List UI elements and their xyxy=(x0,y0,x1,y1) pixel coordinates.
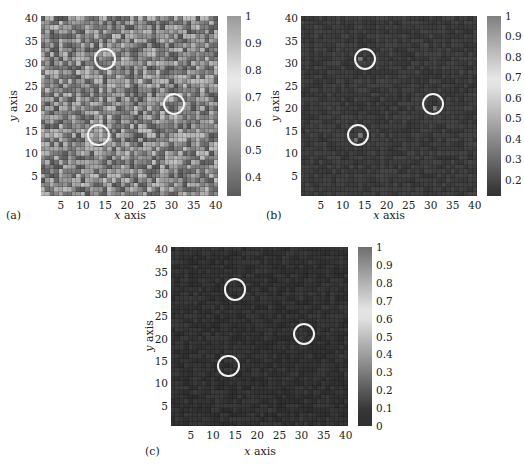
heatmap-grid-b xyxy=(301,16,477,196)
y-tick-label: 10 xyxy=(285,148,298,159)
y-tick-label: 5 xyxy=(291,171,298,182)
colorbar-tick-label: 0.5 xyxy=(376,331,393,342)
x-tick-label: 5 xyxy=(58,200,65,211)
y-axis-label-a: y axis xyxy=(7,90,20,122)
heatmap-grid-a xyxy=(41,16,218,196)
colorbar-tick-label: 0.1 xyxy=(376,403,393,414)
colorbar-tick-label: 0.4 xyxy=(245,172,262,183)
colorbar-tick-label: 0.3 xyxy=(376,367,393,378)
y-tick-label: 10 xyxy=(155,378,168,389)
colorbar-b xyxy=(487,16,501,196)
colorbar-tick-label: 1 xyxy=(505,11,512,22)
colorbar-tick-label: 1 xyxy=(245,11,252,22)
x-tick-label: 15 xyxy=(228,430,241,441)
y-tick-label: 35 xyxy=(155,266,168,277)
x-tick-label: 15 xyxy=(98,200,111,211)
x-tick-label: 5 xyxy=(188,430,195,441)
x-axis-label-a: x axis xyxy=(114,209,146,222)
y-tick-label: 35 xyxy=(25,36,38,47)
colorbar-tick-label: 0.8 xyxy=(376,278,393,289)
x-tick-label: 25 xyxy=(273,430,286,441)
colorbar-tick-label: 0.7 xyxy=(505,72,522,83)
y-tick-label: 20 xyxy=(155,333,168,344)
y-tick-label: 30 xyxy=(285,58,298,69)
colorbar-tick-label: 1 xyxy=(376,242,383,253)
colorbar-a xyxy=(227,16,241,196)
colorbar-tick-label: 0.9 xyxy=(505,31,522,42)
colorbar-tick-label: 0.4 xyxy=(505,133,522,144)
y-tick-label: 15 xyxy=(25,126,38,137)
x-tick-label: 15 xyxy=(358,200,371,211)
colorbar-tick-label: 0.8 xyxy=(245,64,262,75)
x-tick-label: 35 xyxy=(317,430,330,441)
x-tick-label: 35 xyxy=(187,200,200,211)
y-tick-label: 20 xyxy=(285,103,298,114)
y-tick-label: 30 xyxy=(25,58,38,69)
heatmap-cell xyxy=(344,422,348,426)
colorbar-tick-label: 0.7 xyxy=(376,295,393,306)
y-tick-label: 10 xyxy=(25,148,38,159)
colorbar-tick-label: 0.9 xyxy=(376,260,393,271)
colorbar-tick-label: 0.2 xyxy=(376,385,393,396)
y-tick-label: 25 xyxy=(155,311,168,322)
x-tick-label: 10 xyxy=(336,200,349,211)
y-tick-label: 40 xyxy=(285,13,298,24)
colorbar-tick-label: 0.5 xyxy=(505,113,522,124)
x-axis-label-b: x axis xyxy=(373,209,405,222)
panel-label-b: (b) xyxy=(266,209,282,222)
x-tick-label: 30 xyxy=(295,430,308,441)
colorbar-tick-label: 0.5 xyxy=(245,145,262,156)
x-tick-label: 30 xyxy=(424,200,437,211)
panel-label-a: (a) xyxy=(6,209,21,222)
y-tick-label: 25 xyxy=(285,81,298,92)
y-axis-label-b: y axis xyxy=(269,90,282,122)
x-tick-label: 10 xyxy=(76,200,89,211)
colorbar-tick-label: 0.2 xyxy=(505,174,522,185)
x-tick-label: 30 xyxy=(165,200,178,211)
x-tick-label: 20 xyxy=(251,430,264,441)
colorbar-tick-label: 0.6 xyxy=(376,313,393,324)
y-tick-label: 20 xyxy=(25,103,38,114)
x-tick-label: 35 xyxy=(446,200,459,211)
y-axis-label-c: y axis xyxy=(143,320,156,352)
x-axis-label-c: x axis xyxy=(244,445,276,458)
colorbar-tick-label: 0.3 xyxy=(505,154,522,165)
x-tick-label: 5 xyxy=(317,200,324,211)
y-tick-label: 30 xyxy=(155,289,168,300)
heatmap-cell xyxy=(473,192,477,197)
y-tick-label: 40 xyxy=(155,244,168,255)
heatmap-cell xyxy=(214,192,218,197)
x-tick-label: 10 xyxy=(206,430,219,441)
y-tick-label: 15 xyxy=(285,126,298,137)
y-tick-label: 25 xyxy=(25,81,38,92)
colorbar-tick-label: 0.4 xyxy=(376,349,393,360)
colorbar-tick-label: 0.6 xyxy=(245,118,262,129)
colorbar-tick-label: 0.9 xyxy=(245,38,262,49)
colorbar-tick-label: 0.7 xyxy=(245,91,262,102)
y-tick-label: 5 xyxy=(161,401,168,412)
y-tick-label: 15 xyxy=(155,356,168,367)
x-tick-label: 40 xyxy=(339,430,352,441)
y-tick-label: 40 xyxy=(25,13,38,24)
colorbar-tick-label: 0 xyxy=(376,421,383,432)
colorbar-c xyxy=(358,247,372,426)
panel-label-c: (c) xyxy=(145,445,160,458)
y-tick-label: 5 xyxy=(31,171,38,182)
colorbar-tick-label: 0.8 xyxy=(505,52,522,63)
y-tick-label: 35 xyxy=(285,36,298,47)
heatmap-grid-c xyxy=(171,247,348,426)
x-tick-label: 40 xyxy=(209,200,222,211)
colorbar-tick-label: 0.6 xyxy=(505,93,522,104)
x-tick-label: 40 xyxy=(468,200,481,211)
